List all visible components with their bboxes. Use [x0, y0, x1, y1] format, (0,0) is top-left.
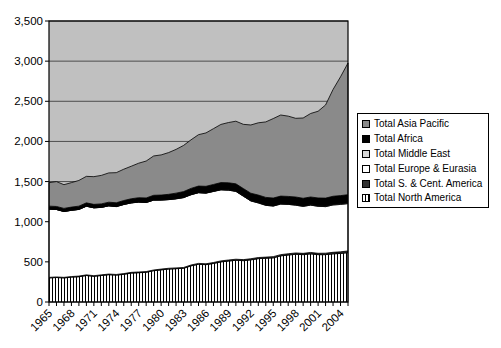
legend-entry-africa: Total Africa — [362, 132, 488, 147]
legend-entry-s-cent-america: Total S. & Cent. America — [362, 176, 488, 191]
stacked-area-chart-figure: 05001,0001,5002,0002,5003,0003,500196519… — [0, 0, 501, 348]
legend-label-africa: Total Africa — [374, 134, 423, 144]
legend-entry-middle-east: Total Middle East — [362, 147, 488, 162]
y-tick-label: 0 — [37, 296, 43, 308]
legend: Total Asia Pacific Total Africa Total Mi… — [357, 113, 489, 208]
x-tick-label: 1992 — [230, 307, 257, 334]
legend-label-europe-eurasia: Total Europe & Eurasia — [374, 164, 476, 174]
x-tick-label: 1977 — [118, 307, 145, 334]
x-tick-label: 1989 — [207, 307, 234, 334]
x-tick-label: 1995 — [252, 307, 279, 334]
y-tick-label: 2,000 — [14, 135, 43, 147]
legend-label-s-cent-america: Total S. & Cent. America — [374, 179, 482, 189]
legend-entry-europe-eurasia: Total Europe & Eurasia — [362, 161, 488, 176]
x-tick-label: 1974 — [95, 307, 122, 334]
legend-label-middle-east: Total Middle East — [374, 149, 450, 159]
x-tick-label: 2001 — [297, 307, 324, 334]
x-tick-label: 1965 — [28, 307, 55, 334]
y-tick-label: 500 — [24, 256, 43, 268]
x-tick-label: 1968 — [50, 307, 77, 334]
y-tick-label: 1,000 — [14, 216, 43, 228]
x-tick-label: 1971 — [73, 307, 100, 334]
x-tick-label: 2004 — [319, 307, 346, 334]
legend-marker-europe-eurasia — [362, 165, 370, 173]
x-tick-label: 1986 — [185, 307, 212, 334]
x-tick-label: 1983 — [162, 307, 189, 334]
legend-marker-s-cent-america — [362, 180, 370, 188]
legend-marker-middle-east — [362, 150, 370, 158]
legend-label-asia-pacific: Total Asia Pacific — [374, 119, 449, 129]
legend-marker-asia-pacific — [362, 120, 370, 128]
legend-marker-north-america — [362, 194, 370, 202]
legend-marker-africa — [362, 135, 370, 143]
legend-entry-north-america: Total North America — [362, 191, 488, 206]
y-tick-label: 3,000 — [14, 55, 43, 67]
legend-entry-asia-pacific: Total Asia Pacific — [362, 117, 488, 132]
legend-label-north-america: Total North America — [374, 193, 461, 203]
y-tick-label: 2,500 — [14, 95, 43, 107]
x-tick-label: 1998 — [275, 307, 302, 334]
y-tick-label: 3,500 — [14, 15, 43, 27]
y-tick-label: 1,500 — [14, 176, 43, 188]
x-tick-label: 1980 — [140, 307, 167, 334]
